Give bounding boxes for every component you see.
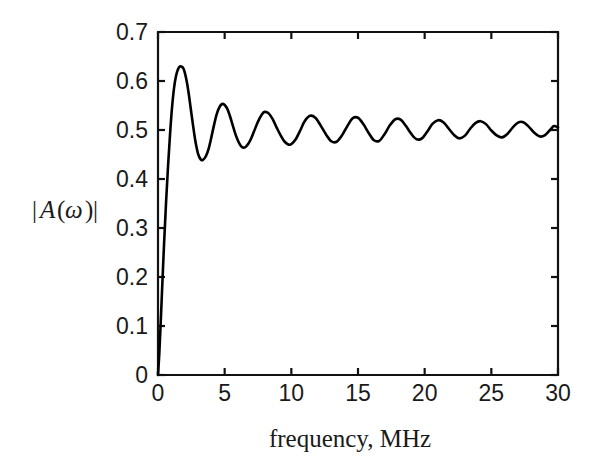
x-tick-label: 20 <box>412 380 438 406</box>
x-tick-label: 0 <box>152 380 165 406</box>
y-tick-label: 0.7 <box>116 19 148 45</box>
y-axis-title-omega-icon: ω <box>65 196 83 223</box>
y-tick-label: 0.4 <box>116 166 148 192</box>
series-path <box>158 66 558 375</box>
y-axis-title: | A ( ω ) | <box>32 196 98 224</box>
x-axis-title: frequency, MHz <box>269 425 431 452</box>
x-tick-label: 5 <box>218 380 231 406</box>
x-tick-labels: 051015202530 <box>152 380 571 406</box>
axes-box <box>158 32 558 375</box>
y-tick-label: 0.1 <box>116 313 148 339</box>
x-tick-label: 25 <box>479 380 505 406</box>
x-tick-label: 10 <box>279 380 305 406</box>
chart-canvas: 051015202530 00.10.20.30.40.50.60.7 freq… <box>0 0 602 458</box>
y-tick-label: 0.2 <box>116 264 148 290</box>
y-axis-title-bar-left: | <box>32 196 37 223</box>
chart-figure: 051015202530 00.10.20.30.40.50.60.7 freq… <box>0 0 602 458</box>
x-tick-label: 30 <box>545 380 571 406</box>
y-tick-label: 0.3 <box>116 215 148 241</box>
x-tick-label: 15 <box>345 380 371 406</box>
data-series-line <box>158 66 558 375</box>
tick-marks <box>158 32 558 375</box>
y-tick-labels: 00.10.20.30.40.50.60.7 <box>116 19 148 388</box>
y-axis-title-bar-right: | <box>93 196 98 223</box>
y-tick-label: 0 <box>135 362 148 388</box>
y-axis-title-symbol: A <box>38 196 56 223</box>
axes <box>158 32 558 375</box>
y-tick-label: 0.6 <box>116 68 148 94</box>
y-tick-label: 0.5 <box>116 117 148 143</box>
